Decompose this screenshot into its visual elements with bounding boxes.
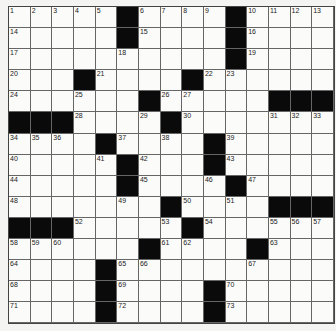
- crossword-cell[interactable]: 38: [161, 134, 183, 155]
- crossword-cell[interactable]: [117, 218, 139, 239]
- crossword-cell[interactable]: 44: [9, 176, 31, 197]
- crossword-cell[interactable]: 34: [9, 134, 31, 155]
- crossword-cell[interactable]: [226, 260, 248, 281]
- crossword-cell[interactable]: [269, 49, 291, 70]
- crossword-cell[interactable]: [52, 91, 74, 112]
- crossword-cell[interactable]: [269, 302, 291, 323]
- crossword-cell[interactable]: [96, 28, 118, 49]
- crossword-cell[interactable]: 54: [204, 218, 226, 239]
- crossword-cell[interactable]: [247, 197, 269, 218]
- crossword-cell[interactable]: 53: [161, 218, 183, 239]
- crossword-cell[interactable]: [312, 70, 334, 91]
- crossword-cell[interactable]: 68: [9, 281, 31, 302]
- crossword-cell[interactable]: 3: [52, 7, 74, 28]
- crossword-cell[interactable]: [182, 155, 204, 176]
- crossword-cell[interactable]: [247, 302, 269, 323]
- crossword-cell[interactable]: [31, 302, 53, 323]
- crossword-cell[interactable]: 11: [269, 7, 291, 28]
- crossword-cell[interactable]: [117, 239, 139, 260]
- crossword-cell[interactable]: [74, 281, 96, 302]
- crossword-cell[interactable]: [31, 176, 53, 197]
- crossword-cell[interactable]: 43: [226, 155, 248, 176]
- crossword-cell[interactable]: [204, 28, 226, 49]
- crossword-cell[interactable]: 63: [269, 239, 291, 260]
- crossword-cell[interactable]: 20: [9, 70, 31, 91]
- crossword-cell[interactable]: 52: [74, 218, 96, 239]
- crossword-cell[interactable]: [31, 28, 53, 49]
- crossword-cell[interactable]: [312, 239, 334, 260]
- crossword-cell[interactable]: 14: [9, 28, 31, 49]
- crossword-cell[interactable]: [247, 281, 269, 302]
- crossword-cell[interactable]: [269, 260, 291, 281]
- crossword-cell[interactable]: [204, 91, 226, 112]
- crossword-cell[interactable]: 6: [139, 7, 161, 28]
- crossword-cell[interactable]: 24: [9, 91, 31, 112]
- crossword-cell[interactable]: [291, 239, 313, 260]
- crossword-cell[interactable]: 45: [139, 176, 161, 197]
- crossword-cell[interactable]: 8: [182, 7, 204, 28]
- crossword-cell[interactable]: [182, 176, 204, 197]
- crossword-cell[interactable]: [291, 302, 313, 323]
- crossword-cell[interactable]: 12: [291, 7, 313, 28]
- crossword-cell[interactable]: [161, 70, 183, 91]
- crossword-cell[interactable]: 40: [9, 155, 31, 176]
- crossword-cell[interactable]: 69: [117, 281, 139, 302]
- crossword-cell[interactable]: [52, 176, 74, 197]
- crossword-cell[interactable]: 16: [247, 28, 269, 49]
- crossword-cell[interactable]: [139, 49, 161, 70]
- crossword-cell[interactable]: [312, 28, 334, 49]
- crossword-cell[interactable]: 57: [312, 218, 334, 239]
- crossword-cell[interactable]: 35: [31, 134, 53, 155]
- crossword-cell[interactable]: [74, 28, 96, 49]
- crossword-cell[interactable]: 13: [312, 7, 334, 28]
- crossword-cell[interactable]: [52, 155, 74, 176]
- crossword-cell[interactable]: [52, 49, 74, 70]
- crossword-cell[interactable]: [247, 70, 269, 91]
- crossword-cell[interactable]: [139, 134, 161, 155]
- crossword-cell[interactable]: [247, 218, 269, 239]
- crossword-cell[interactable]: [247, 112, 269, 133]
- crossword-cell[interactable]: [291, 155, 313, 176]
- crossword-cell[interactable]: [226, 218, 248, 239]
- crossword-cell[interactable]: 65: [117, 260, 139, 281]
- crossword-cell[interactable]: [204, 197, 226, 218]
- crossword-cell[interactable]: [161, 28, 183, 49]
- crossword-cell[interactable]: [204, 49, 226, 70]
- crossword-cell[interactable]: [269, 134, 291, 155]
- crossword-cell[interactable]: [312, 134, 334, 155]
- crossword-cell[interactable]: 10: [247, 7, 269, 28]
- crossword-cell[interactable]: [117, 70, 139, 91]
- crossword-cell[interactable]: [31, 281, 53, 302]
- crossword-cell[interactable]: 33: [312, 112, 334, 133]
- crossword-cell[interactable]: [312, 260, 334, 281]
- crossword-cell[interactable]: [96, 91, 118, 112]
- crossword-cell[interactable]: [139, 218, 161, 239]
- crossword-cell[interactable]: [269, 28, 291, 49]
- crossword-cell[interactable]: 39: [226, 134, 248, 155]
- crossword-cell[interactable]: 58: [9, 239, 31, 260]
- crossword-cell[interactable]: 36: [52, 134, 74, 155]
- crossword-cell[interactable]: [182, 28, 204, 49]
- crossword-cell[interactable]: [269, 281, 291, 302]
- crossword-cell[interactable]: 72: [117, 302, 139, 323]
- crossword-cell[interactable]: 4: [74, 7, 96, 28]
- crossword-cell[interactable]: 26: [161, 91, 183, 112]
- crossword-cell[interactable]: [74, 134, 96, 155]
- crossword-cell[interactable]: [247, 155, 269, 176]
- crossword-cell[interactable]: 25: [74, 91, 96, 112]
- crossword-cell[interactable]: [291, 28, 313, 49]
- crossword-cell[interactable]: 67: [247, 260, 269, 281]
- crossword-cell[interactable]: [74, 155, 96, 176]
- crossword-cell[interactable]: [312, 155, 334, 176]
- crossword-cell[interactable]: 59: [31, 239, 53, 260]
- crossword-cell[interactable]: 2: [31, 7, 53, 28]
- crossword-cell[interactable]: [31, 49, 53, 70]
- crossword-cell[interactable]: 28: [74, 112, 96, 133]
- crossword-cell[interactable]: [31, 70, 53, 91]
- crossword-cell[interactable]: [96, 239, 118, 260]
- crossword-cell[interactable]: 48: [9, 197, 31, 218]
- crossword-cell[interactable]: [161, 176, 183, 197]
- crossword-cell[interactable]: [74, 49, 96, 70]
- crossword-cell[interactable]: 41: [96, 155, 118, 176]
- crossword-cell[interactable]: 49: [117, 197, 139, 218]
